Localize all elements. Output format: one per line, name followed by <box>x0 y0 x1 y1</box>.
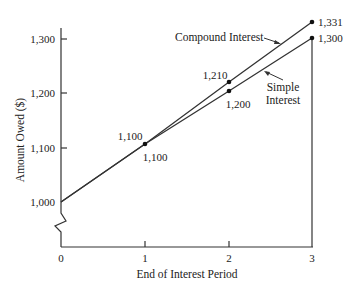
y-axis <box>55 28 67 247</box>
x-axis <box>61 241 313 247</box>
point-2-compound <box>227 80 232 85</box>
compound-interest-annotation: Compound Interest <box>175 31 264 44</box>
x-tick-1: 1 <box>142 252 148 264</box>
compound-interest-line <box>61 22 312 202</box>
point-3-compound <box>310 20 315 25</box>
label-p2-compound: 1,210 <box>203 69 228 81</box>
point-1 <box>143 142 148 147</box>
label-p1-lower: 1,100 <box>143 151 168 163</box>
y-tick-1300: 1,300 <box>30 33 55 45</box>
simple-interest-annotation-line1: Simple <box>267 81 300 94</box>
compound-arrowhead-icon <box>274 40 281 44</box>
y-tick-1100: 1,100 <box>30 142 55 154</box>
simple-interest-line <box>61 38 312 202</box>
x-tick-2: 2 <box>226 252 232 264</box>
y-axis-title: Amount Owed ($) <box>14 98 27 182</box>
x-tick-0: 0 <box>58 252 64 264</box>
x-axis-title: End of Interest Period <box>136 268 237 280</box>
y-tick-1200: 1,200 <box>30 87 55 99</box>
label-p3-simple: 1,300 <box>318 32 343 44</box>
simple-interest-annotation-line2: Interest <box>266 94 301 106</box>
interest-chart: 1,000 1,100 1,200 1,300 0 1 2 3 End of I… <box>0 0 356 295</box>
point-2-simple <box>227 89 232 94</box>
y-tick-1000: 1,000 <box>30 196 55 208</box>
label-p3-compound: 1,331 <box>318 16 343 28</box>
label-p2-simple: 1,200 <box>226 98 251 110</box>
simple-arrowhead-icon <box>264 71 270 76</box>
x-tick-3: 3 <box>309 252 315 264</box>
label-p1-upper: 1,100 <box>118 130 143 142</box>
point-3-simple <box>310 36 315 41</box>
